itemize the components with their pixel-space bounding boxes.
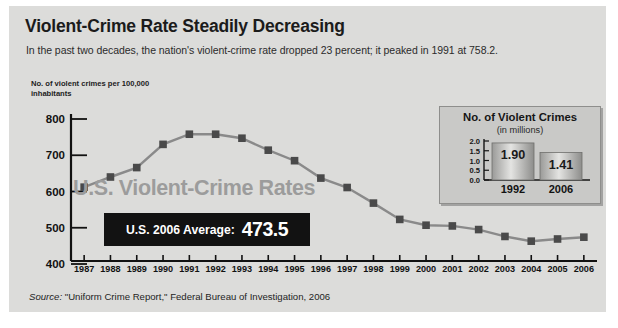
data-point-marker bbox=[264, 146, 272, 154]
data-point-marker bbox=[554, 235, 562, 243]
inset-y-ticks bbox=[484, 141, 489, 180]
data-point-marker bbox=[449, 222, 457, 230]
inset-y-axis-label: 1.0 bbox=[461, 157, 480, 166]
data-point-marker bbox=[475, 226, 483, 234]
y-axis-label: 500 bbox=[29, 222, 65, 234]
data-point-marker bbox=[212, 130, 220, 138]
source-prefix: Source: bbox=[29, 291, 62, 302]
data-point-marker bbox=[186, 130, 194, 138]
data-point-marker bbox=[159, 141, 167, 149]
inset-y-axis-label: 1.5 bbox=[461, 147, 480, 156]
data-point-marker bbox=[238, 134, 246, 142]
data-point-marker bbox=[133, 164, 141, 172]
inset-bar-value: 1.41 bbox=[538, 158, 584, 172]
average-callout: U.S. 2006 Average: 473.5 bbox=[104, 213, 310, 246]
source-note: Source: "Uniform Crime Report," Federal … bbox=[29, 291, 330, 302]
data-point-marker bbox=[422, 221, 430, 229]
y-axis-label: 400 bbox=[29, 258, 65, 270]
y-axis-label: 700 bbox=[29, 149, 65, 161]
data-point-marker bbox=[370, 199, 378, 207]
y-axis-label: 600 bbox=[29, 186, 65, 198]
average-callout-label: U.S. 2006 Average: bbox=[126, 223, 235, 237]
inset-x-axis-label: 1992 bbox=[490, 183, 536, 195]
inset-bar-value: 1.90 bbox=[490, 148, 536, 162]
x-axis-label: 2006 bbox=[567, 264, 601, 274]
source-text: "Uniform Crime Report," Federal Bureau o… bbox=[62, 291, 330, 302]
average-callout-value: 473.5 bbox=[242, 218, 288, 241]
inset-y-axis-label: 0.5 bbox=[461, 166, 480, 175]
chart-watermark: U.S. Violent-Crime Rates bbox=[73, 176, 315, 201]
y-axis-label: 800 bbox=[29, 113, 65, 125]
data-point-marker bbox=[396, 216, 404, 224]
data-point-marker bbox=[317, 174, 325, 182]
data-point-marker bbox=[291, 157, 299, 165]
inset-y-axis-label: 2.0 bbox=[461, 137, 480, 146]
data-point-marker bbox=[501, 233, 509, 241]
inset-bar-chart: No. of Violent Crimes (in millions) 0.00… bbox=[439, 106, 601, 204]
data-point-marker bbox=[580, 233, 588, 241]
inset-y-axis-label: 0.0 bbox=[461, 176, 480, 185]
data-point-marker bbox=[527, 237, 535, 245]
inset-x-axis-label: 2006 bbox=[538, 183, 584, 195]
data-point-marker bbox=[343, 184, 351, 192]
infographic-panel: Violent-Crime Rate Steadily Decreasing I… bbox=[9, 6, 606, 312]
